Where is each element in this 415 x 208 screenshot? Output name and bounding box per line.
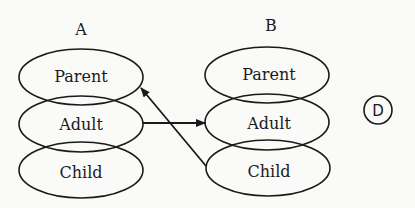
badge-label: D [372, 102, 384, 120]
child-label: Child [247, 162, 290, 181]
column-b-label: B [265, 16, 277, 35]
parent-label: Parent [242, 65, 296, 84]
column-a-child: Child [19, 142, 143, 198]
column-b-child: Child [206, 140, 330, 196]
arrow-child-to-parent [141, 88, 206, 166]
parent-label: Parent [54, 67, 108, 86]
adult-label: Adult [58, 115, 103, 134]
column-b: B Parent Adult Child [205, 16, 330, 196]
column-a: A Parent Adult Child [19, 20, 143, 198]
column-a-label: A [74, 20, 87, 39]
ego-state-diagram: A Parent Adult Child B Parent Adult Chil… [0, 0, 415, 208]
child-label: Child [59, 163, 102, 182]
badge-d: D [364, 96, 392, 124]
adult-label: Adult [246, 114, 291, 133]
